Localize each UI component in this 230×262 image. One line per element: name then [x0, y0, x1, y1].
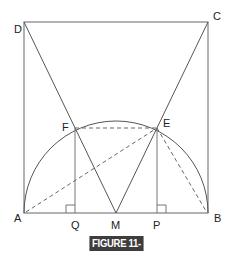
segment-ae-dashed [26, 128, 157, 212]
label-b: B [214, 212, 221, 224]
square-abcd [24, 22, 208, 213]
right-angle-mark-q [66, 205, 75, 213]
label-d: D [14, 23, 22, 35]
figure-caption: FIGURE 11-28 [89, 236, 143, 251]
label-e: E [163, 117, 170, 129]
right-angle-mark-p [157, 205, 166, 213]
label-f: F [62, 121, 69, 133]
segment-eb-dashed [157, 128, 206, 211]
segment-cm [116, 22, 208, 213]
label-c: C [213, 10, 221, 22]
label-m: M [111, 219, 120, 231]
geometry-figure: D C F E A B Q M P [0, 0, 230, 262]
label-q: Q [71, 219, 80, 231]
label-a: A [14, 212, 22, 224]
label-p: P [153, 219, 160, 231]
